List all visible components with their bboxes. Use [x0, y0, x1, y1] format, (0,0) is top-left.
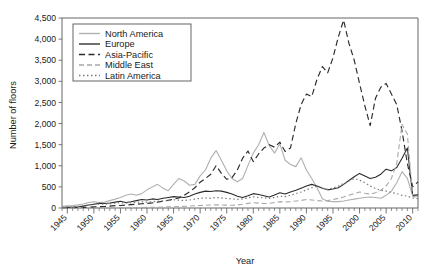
- y-axis-title: Number of floors: [8, 81, 18, 149]
- y-tick-label: 2,500: [34, 98, 56, 108]
- y-tick-label: 500: [42, 182, 57, 192]
- series-line-middle-east: [62, 124, 418, 208]
- x-tick-label: 2010: [394, 212, 415, 233]
- legend-label-asia-pacific: Asia-Pacific: [105, 50, 153, 60]
- y-tick-label: 2,000: [34, 119, 56, 129]
- y-tick-label: 1,500: [34, 140, 56, 150]
- line-chart: 05001,0001,5002,0002,5003,0003,5004,0004…: [0, 0, 436, 271]
- x-tick-label: 1975: [208, 212, 229, 233]
- y-tick-label: 0: [51, 203, 56, 213]
- y-axis-tick-marks: [59, 18, 63, 208]
- y-tick-label: 4,500: [34, 13, 56, 23]
- x-tick-label: 2005: [367, 212, 388, 233]
- x-tick-label: 1950: [75, 212, 96, 233]
- x-axis-tick-marks: [67, 208, 412, 214]
- x-tick-label: 1945: [48, 212, 69, 233]
- x-axis-tick-labels: 1945195019551960196519701975198019851990…: [48, 212, 414, 233]
- x-tick-label: 1985: [261, 212, 282, 233]
- legend-label-north-america: North America: [105, 29, 164, 39]
- x-tick-label: 1970: [181, 212, 202, 233]
- y-tick-label: 4,000: [34, 34, 56, 44]
- x-tick-label: 1955: [101, 212, 122, 233]
- x-tick-label: 1960: [128, 212, 149, 233]
- x-tick-label: 2000: [340, 212, 361, 233]
- x-tick-label: 1990: [287, 212, 308, 233]
- y-tick-label: 3,000: [34, 76, 56, 86]
- y-tick-label: 3,500: [34, 55, 56, 65]
- x-tick-label: 1995: [314, 212, 335, 233]
- x-tick-label: 1980: [234, 212, 255, 233]
- legend-label-latin-america: Latin America: [105, 71, 162, 81]
- legend-label-middle-east: Middle East: [105, 60, 153, 70]
- y-tick-label: 1,000: [34, 161, 56, 171]
- chart-figure: 05001,0001,5002,0002,5003,0003,5004,0004…: [0, 0, 436, 271]
- series-line-north-america: [62, 132, 418, 206]
- legend-label-europe: Europe: [105, 39, 135, 49]
- y-axis-tick-labels: 05001,0001,5002,0002,5003,0003,5004,0004…: [34, 13, 56, 213]
- x-tick-label: 1965: [154, 212, 175, 233]
- x-axis-title: Year: [236, 256, 255, 266]
- chart-legend: North AmericaEuropeAsia-PacificMiddle Ea…: [73, 24, 191, 81]
